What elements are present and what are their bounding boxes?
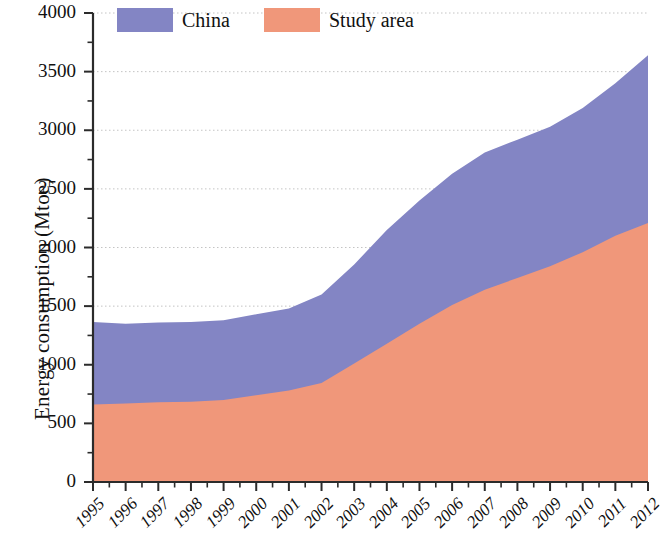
y-tick-label: 500: [0, 411, 76, 433]
legend-entry-china: China: [117, 8, 230, 32]
y-axis-ticks: [84, 13, 93, 482]
energy-consumption-stacked-area-chart: Energy consumption (Mtoe) 05001000150020…: [0, 0, 664, 541]
legend-label-study-area: Study area: [329, 9, 414, 32]
legend-swatch-study-area: [264, 8, 320, 32]
chart-canvas: [0, 0, 664, 541]
y-tick-label: 4000: [0, 1, 76, 23]
y-tick-label: 2000: [0, 236, 76, 258]
legend-label-china: China: [182, 9, 230, 32]
y-tick-label: 2500: [0, 177, 76, 199]
y-tick-label: 3000: [0, 118, 76, 140]
y-tick-label: 0: [0, 470, 76, 492]
legend-entry-study-area: Study area: [264, 8, 414, 32]
legend-swatch-china: [117, 8, 173, 32]
y-tick-label: 3500: [0, 60, 76, 82]
x-axis-ticks: [93, 482, 648, 491]
y-tick-label: 1500: [0, 294, 76, 316]
y-tick-label: 1000: [0, 353, 76, 375]
